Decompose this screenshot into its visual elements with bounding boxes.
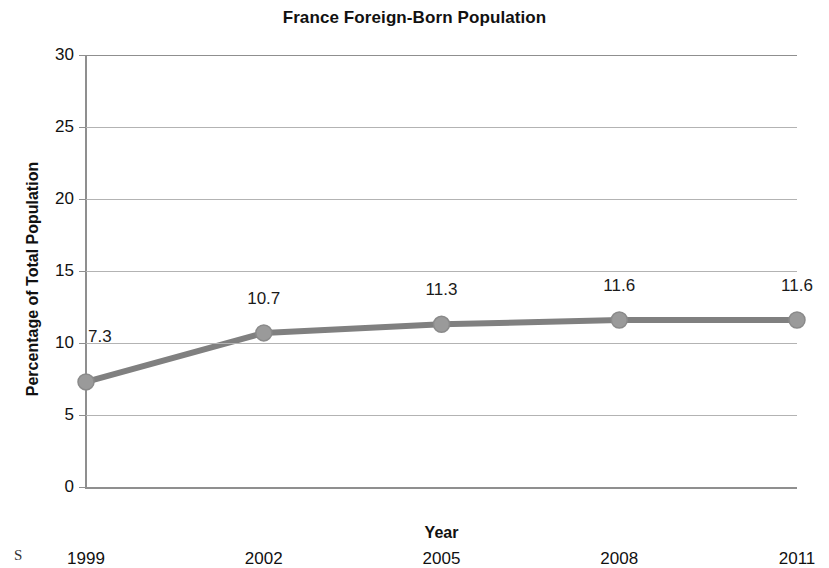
y-tick-mark <box>79 343 86 344</box>
x-tick-label: 2008 <box>559 549 679 568</box>
y-tick-label: 10 <box>34 333 74 353</box>
data-label: 7.3 <box>88 327 148 347</box>
data-point-marker[interactable] <box>78 374 94 390</box>
gridline <box>86 199 797 200</box>
y-tick-label: 25 <box>34 117 74 137</box>
y-tick-label: 30 <box>34 45 74 65</box>
y-tick-label: 5 <box>34 405 74 425</box>
data-point-marker[interactable] <box>789 312 805 328</box>
y-tick-mark <box>79 127 86 128</box>
data-point-marker[interactable] <box>256 325 272 341</box>
gridline <box>86 55 797 56</box>
y-tick-label: 20 <box>34 189 74 209</box>
data-label: 11.3 <box>382 280 502 300</box>
data-label: 10.7 <box>204 289 324 309</box>
x-tick-label: 2011 <box>737 549 829 568</box>
data-point-marker[interactable] <box>434 316 450 332</box>
y-tick-mark <box>79 199 86 200</box>
plot-area: 051015202530199920022005200820117.310.71… <box>86 55 797 487</box>
x-tick-label: 2002 <box>204 549 324 568</box>
x-axis-line <box>86 487 797 489</box>
x-tick-label: 2005 <box>382 549 502 568</box>
gridline <box>86 271 797 272</box>
gridline <box>86 415 797 416</box>
data-point-marker[interactable] <box>611 312 627 328</box>
x-axis-title: Year <box>86 524 797 542</box>
gridline <box>86 343 797 344</box>
y-tick-label: 15 <box>34 261 74 281</box>
y-tick-label: 0 <box>34 477 74 497</box>
source-note: S <box>14 547 22 563</box>
gridline <box>86 127 797 128</box>
chart-title: France Foreign-Born Population <box>0 8 829 28</box>
y-tick-mark <box>79 55 86 56</box>
y-tick-mark <box>79 415 86 416</box>
y-tick-mark <box>79 271 86 272</box>
y-tick-mark <box>79 487 86 488</box>
data-label: 11.6 <box>559 276 679 296</box>
x-tick-label: 1999 <box>26 549 146 568</box>
data-label: 11.6 <box>737 276 829 296</box>
